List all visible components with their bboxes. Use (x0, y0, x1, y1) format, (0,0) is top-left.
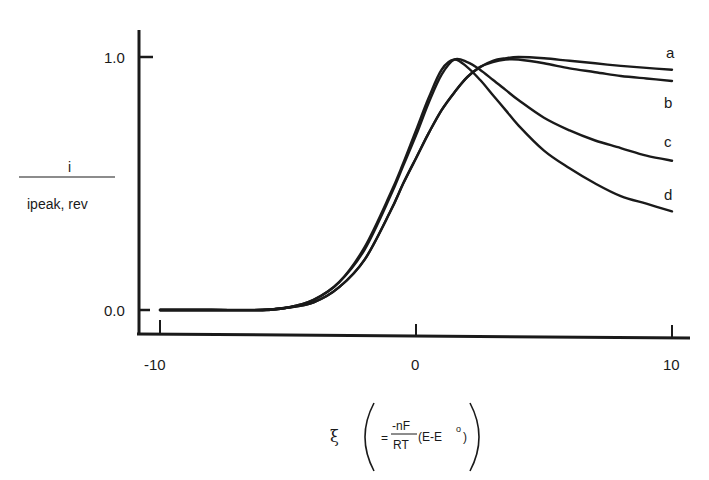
chart: 1.0 0.0 -10 0 10 a b c d i ipeak, rev ξ … (0, 0, 709, 480)
x-tick-label-minus10: -10 (144, 356, 166, 373)
y-tick-label-1: 1.0 (104, 49, 125, 66)
curve-label-b: b (664, 94, 672, 111)
x-tick-label-10: 10 (663, 356, 680, 373)
x-label-frac-den: RT (393, 438, 409, 452)
x-label-frac-num: -nF (392, 419, 410, 433)
x-label-close: ) (463, 430, 467, 444)
curve-d (160, 59, 672, 310)
x-label-symbol: ξ (330, 427, 339, 446)
y-label-denominator: ipeak, rev (27, 196, 88, 212)
y-tick-label-0: 0.0 (104, 302, 125, 319)
x-label-equals: = (381, 431, 388, 445)
y-label-numerator: i (68, 159, 71, 175)
x-axis (137, 334, 690, 338)
x-tick-label-0: 0 (411, 356, 419, 373)
x-label-superscript: o (456, 424, 461, 434)
curve-label-d: d (664, 186, 672, 203)
x-label-open-paren (365, 403, 374, 471)
curves (160, 57, 672, 310)
x-label-close-paren (470, 403, 479, 471)
curve-label-c: c (664, 133, 672, 150)
x-label-paren-expr: (E-E (418, 430, 442, 444)
curve-label-a: a (666, 44, 675, 61)
